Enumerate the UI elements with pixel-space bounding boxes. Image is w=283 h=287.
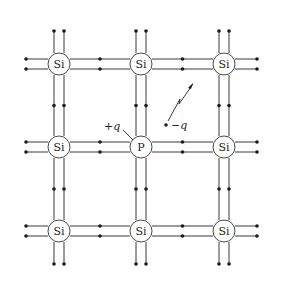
atom-label: Si [53,225,65,238]
atom-label: P [137,141,145,154]
silicon-atom: Si [48,220,70,242]
zigzag-arrow-icon [168,84,193,121]
silicon-atom: Si [213,220,235,242]
atom-label: Si [53,58,65,71]
phosphorus-atom: P [130,136,152,158]
electron-dot [144,29,148,33]
electron-dot [62,104,66,108]
electron-dot [227,29,231,33]
electron-dot [62,187,66,191]
electron-dot [134,104,138,108]
electron-dot [217,104,221,108]
electron-dot [134,187,138,191]
electron-dot [52,262,56,266]
silicon-atom: Si [48,136,70,158]
electron-dot [227,187,231,191]
atom-label: Si [218,141,230,154]
electron-dot [227,262,231,266]
electron-dot [24,67,28,71]
electron-dot [52,29,56,33]
electron-dot [255,57,259,61]
electron-dot [134,262,138,266]
electron-dot [181,140,185,144]
electron-dot [24,57,28,61]
electron-dot [24,150,28,154]
atom-label: Si [53,141,65,154]
electron-dot [181,67,185,71]
electron-dot [52,187,56,191]
electron-dot [181,57,185,61]
silicon-atom: Si [213,136,235,158]
free-electron-dot [164,123,168,127]
electron-dot [62,29,66,33]
donor-charge-leader [123,130,133,140]
atom-label: Si [218,58,230,71]
silicon-atom: Si [48,53,70,75]
electron-dot [181,150,185,154]
electron-dot [52,104,56,108]
electron-dot [255,67,259,71]
arrowhead-icon [188,83,193,89]
electron-dot [98,224,102,228]
electron-dot [181,234,185,238]
electron-dot [255,140,259,144]
electron-dot [144,262,148,266]
electron-dot [255,150,259,154]
electron-dot [227,104,231,108]
electron-dot [98,140,102,144]
electron-dot [217,187,221,191]
electron-dot [181,224,185,228]
electron-dot [98,150,102,154]
silicon-atom: Si [213,53,235,75]
electron-dot [24,140,28,144]
electron-dot [217,29,221,33]
electron-dot [134,29,138,33]
atoms: SiSiSiSiPSiSiSiSi [48,53,235,242]
donor-charge-label: +q [104,120,120,133]
lattice-svg: SiSiSiSiPSiSiSiSi +q −q [0,0,283,287]
electron-dot [217,262,221,266]
electron-dot [24,234,28,238]
free-electron-charge-label: −q [171,119,187,132]
electron-dot [62,262,66,266]
electron-dot [144,187,148,191]
electron-dot [24,224,28,228]
electron-dot [255,234,259,238]
electron-dot [144,104,148,108]
silicon-atom: Si [130,220,152,242]
atom-label: Si [135,225,147,238]
atom-label: Si [218,225,230,238]
silicon-lattice-diagram: SiSiSiSiPSiSiSiSi +q −q [0,0,283,287]
silicon-atom: Si [130,53,152,75]
electron-dot [98,67,102,71]
atom-label: Si [135,58,147,71]
electron-dot [98,234,102,238]
electron-dot [255,224,259,228]
electron-dot [98,57,102,61]
